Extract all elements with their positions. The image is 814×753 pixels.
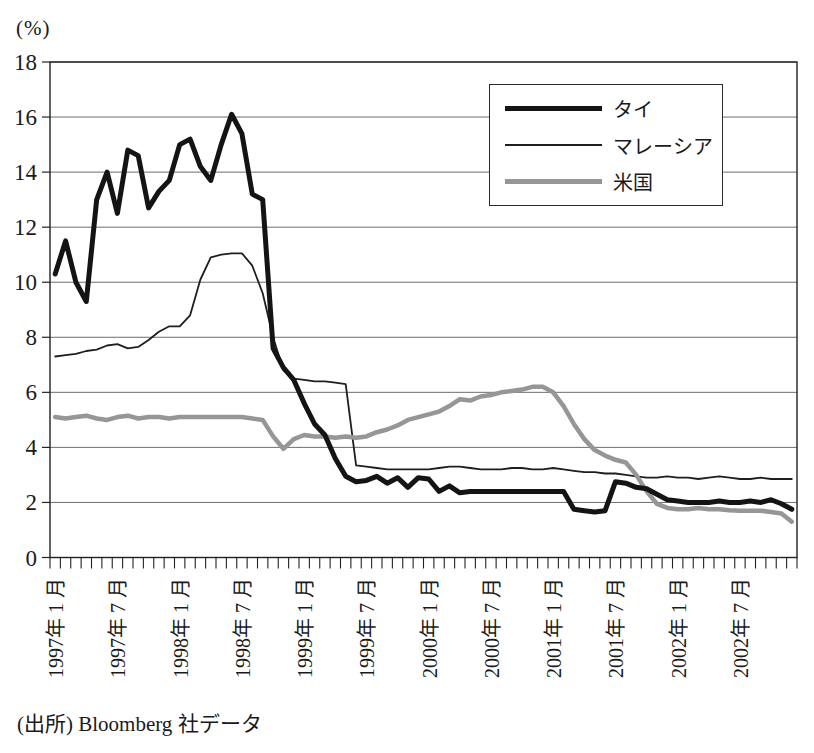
x-tick-label: 1998年 1 月 [170, 578, 192, 678]
y-tick-label: 10 [14, 270, 37, 295]
source-note: (出所) Bloomberg 社データ [17, 707, 262, 737]
y-tick-label: 6 [26, 380, 38, 405]
x-tick-label: 1997年 1 月 [45, 578, 67, 678]
legend: タイ マレーシア 米国 [489, 84, 723, 206]
y-tick-label: 2 [26, 490, 38, 515]
y-tick-label: 8 [26, 325, 38, 350]
legend-label-malaysia: マレーシア [613, 131, 713, 160]
x-tick-label: 2001年 1 月 [543, 578, 565, 678]
y-tick-label: 18 [14, 50, 37, 75]
x-tick-label: 1997年 7 月 [107, 578, 129, 678]
legend-item-thailand: タイ [490, 94, 722, 123]
x-tick-label: 1999年 1 月 [294, 578, 316, 678]
x-tick-label: 2000年 1 月 [419, 578, 441, 678]
x-tick-label: 2000年 7 月 [481, 578, 503, 678]
x-tick-label: 2002年 1 月 [668, 578, 690, 678]
legend-line-sample-thailand [505, 106, 602, 111]
legend-label-thailand: タイ [613, 94, 653, 123]
legend-line-sample-us [505, 179, 602, 184]
x-tick-label: 1999年 7 月 [356, 578, 378, 678]
legend-item-malaysia: マレーシア [490, 131, 722, 160]
y-tick-label: 12 [14, 215, 37, 240]
interest-rate-chart-page: (%) 0246810121416181997年 1 月1997年 7 月199… [0, 0, 814, 753]
legend-label-us: 米国 [613, 167, 653, 196]
y-tick-label: 14 [14, 160, 38, 185]
y-tick-label: 16 [14, 105, 37, 130]
legend-line-sample-malaysia [505, 144, 602, 146]
x-tick-label: 2001年 7 月 [605, 578, 627, 678]
x-tick-label: 2002年 7 月 [730, 578, 752, 678]
legend-item-us: 米国 [490, 167, 722, 196]
y-tick-label: 0 [26, 546, 38, 571]
x-tick-label: 1998年 7 月 [232, 578, 254, 678]
series-line-malaysia [55, 253, 792, 479]
y-tick-label: 4 [26, 435, 38, 460]
